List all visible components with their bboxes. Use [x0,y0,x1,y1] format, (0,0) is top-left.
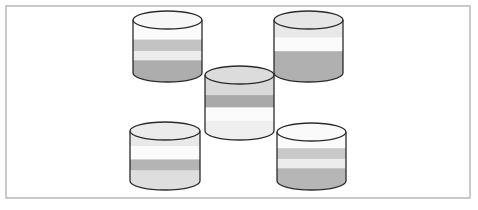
cylinder-bottom-left-band-3 [129,160,201,171]
cylinder-bottom-left-band-2 [129,146,201,160]
cylinder-top-left[interactable]: Top left cylinder [132,11,203,84]
cylinder-bottom-left-top-cap [130,122,200,140]
cylinder-top-left-band-2 [132,40,203,52]
cylinder-bottom-right[interactable]: Bottom right cylinder [276,123,347,192]
cylinder-center-band-2 [204,95,275,107]
cylinder-top-right-top-cap [274,11,343,29]
cylinder-center-band-3 [204,107,275,120]
cylinder-diagram-canvas: Top left cylinderTop right cylinderCente… [0,0,478,210]
cylinder-bottom-right-band-3 [276,159,347,168]
figure-root: Five banded cylinders arranged in a quin… [0,0,478,210]
cylinder-bottom-right-band-2 [276,148,347,159]
cylinder-top-left-band-3 [132,51,203,60]
cylinder-top-right[interactable]: Top right cylinder [273,11,344,84]
cylinder-center[interactable]: Center cylinder [204,66,275,142]
cylinder-bottom-left[interactable]: Bottom left cylinder [129,122,201,192]
cylinder-center-top-cap [205,66,274,84]
cylinder-top-right-band-2 [273,37,344,51]
cylinder-top-left-top-cap [133,11,202,29]
cylinder-bottom-right-top-cap [277,123,346,141]
